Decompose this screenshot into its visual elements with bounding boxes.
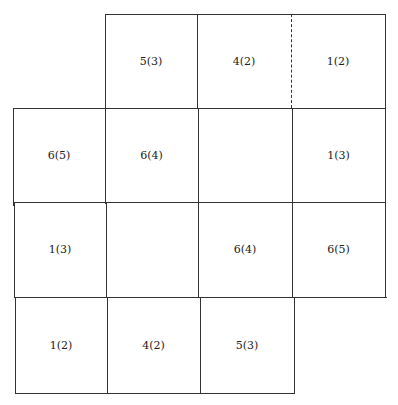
cell-r0-c3: 1(2): [291, 14, 385, 108]
cell-r2-c3: 6(5): [292, 202, 385, 297]
cell-label: 6(5): [48, 149, 71, 162]
cell-r1-c1: 6(4): [105, 108, 198, 202]
cell-r1-c3: 1(3): [292, 108, 385, 202]
grid-line-bottom: [15, 393, 295, 394]
cell-label: 5(3): [236, 339, 259, 352]
cell-label: 4(2): [233, 55, 256, 68]
cell-label: 6(4): [140, 149, 163, 162]
cell-r0-c1: 5(3): [105, 14, 197, 108]
grid-line-right: [385, 14, 386, 298]
cell-r2-c2: 6(4): [198, 202, 292, 297]
cell-label: 6(4): [234, 243, 257, 256]
cell-r0-c2: 4(2): [197, 14, 291, 108]
cell-r1-c0: 6(5): [13, 108, 105, 202]
grid-line-col3-bottom: [294, 297, 295, 394]
cell-label: 1(2): [50, 339, 73, 352]
cell-r3-c0: 1(2): [15, 297, 107, 393]
cell-label: 6(5): [327, 243, 350, 256]
cell-label: 5(3): [140, 55, 163, 68]
cell-label: 1(3): [327, 149, 350, 162]
cell-r3-c1: 4(2): [107, 297, 200, 393]
cell-r2-c1: [106, 202, 198, 297]
cell-label: 4(2): [142, 339, 165, 352]
cell-r2-c0: 1(3): [14, 202, 106, 297]
cell-label: 1(2): [327, 55, 350, 68]
cell-r1-c2: [198, 108, 292, 202]
cell-r3-c2: 5(3): [200, 297, 294, 393]
cell-label: 1(3): [49, 243, 72, 256]
